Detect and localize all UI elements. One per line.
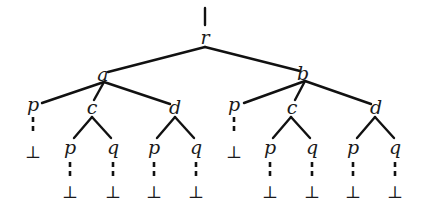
node-r: r [200,26,211,48]
node-b-d: d [370,96,382,118]
node-ac-q: q [107,136,119,158]
edge-r-a [108,47,205,72]
node-bc-q: q [306,136,318,158]
node-b-c: c [287,96,298,118]
edge-a-d [104,82,170,104]
node-ad-q: q [190,136,202,158]
node-bd-q: q [389,136,401,158]
edge-ac-q [92,117,111,138]
edge-bc-p [273,117,291,138]
bottom-ac-q: ⊥ [105,182,121,202]
edge-bd-q [375,117,394,138]
node-ad-p: p [148,136,160,158]
node-bd-p: p [347,136,359,158]
node-b-p: p [228,93,240,115]
edge-b-d [305,81,371,104]
bottom-bd-p: ⊥ [345,182,361,202]
bottom-b-p: ⊥ [226,142,242,162]
node-bc-p: p [264,136,276,158]
bottom-bd-q: ⊥ [387,182,403,202]
node-b: b [297,62,309,84]
tree-diagram: r a b p c d p c d p q p q p q p q ⊥ ⊥ ⊥ … [0,0,426,212]
edge-ac-p [74,117,92,138]
bottom-ad-p: ⊥ [146,182,162,202]
edge-bd-p [357,117,375,138]
bottom-bc-q: ⊥ [304,182,320,202]
node-a-d: d [169,96,181,118]
bottom-bc-p: ⊥ [262,182,278,202]
edge-r-b [205,47,300,71]
bottom-ad-q: ⊥ [188,182,204,202]
bottom-a-p: ⊥ [25,142,41,162]
node-a-p: p [27,93,39,115]
bottom-ac-p: ⊥ [62,182,78,202]
edge-ad-q [175,117,194,138]
node-ac-p: p [64,136,76,158]
node-a: a [97,63,108,85]
node-a-c: c [87,96,98,118]
edge-bc-q [291,117,310,138]
edge-ad-p [157,117,175,138]
